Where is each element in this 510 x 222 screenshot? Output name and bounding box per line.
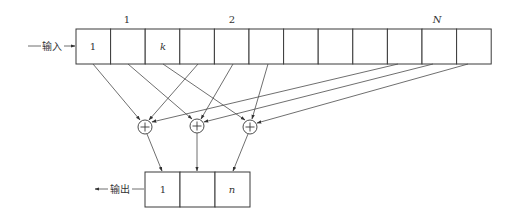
input-label: 输入 xyxy=(42,40,62,52)
input-register: 1 k xyxy=(76,29,491,64)
input-cell-6 xyxy=(249,29,284,64)
output-register: 1 n xyxy=(145,172,250,207)
wire-cell11-adder2 xyxy=(204,64,433,122)
wire-cell2-adder2 xyxy=(128,64,192,119)
input-cell-11 xyxy=(422,29,457,64)
output-label-group: 输出 xyxy=(95,183,144,195)
wire-adder1-out1 xyxy=(147,134,162,171)
input-cell-4 xyxy=(180,29,215,64)
wire-cell12-adder3 xyxy=(257,64,468,123)
wire-cell10-adder1 xyxy=(152,64,398,122)
input-cell-2 xyxy=(111,29,146,64)
convolutional-encoder-diagram: 1 2 N 输入 1 k xyxy=(0,0,510,222)
wire-cell5-adder2 xyxy=(201,64,233,119)
input-cell-9 xyxy=(353,29,388,64)
wire-cell4-adder1 xyxy=(149,64,198,120)
adder-3 xyxy=(243,120,257,134)
input-cell-3-label: k xyxy=(160,41,166,52)
output-cell-3-label: n xyxy=(229,184,235,195)
input-cell-5 xyxy=(214,29,249,64)
output-cell-1-label: 1 xyxy=(160,184,166,195)
wire-cell3-adder3 xyxy=(163,64,245,120)
top-markers: 1 2 N xyxy=(124,14,443,25)
input-connections xyxy=(93,64,468,123)
input-cell-12 xyxy=(457,29,492,64)
input-cell-8 xyxy=(318,29,353,64)
marker-1: 1 xyxy=(124,14,130,25)
wire-cell1-adder1 xyxy=(93,64,140,120)
input-cell-1-label: 1 xyxy=(90,41,96,52)
marker-N: N xyxy=(432,14,443,25)
input-label-group: 输入 xyxy=(28,40,75,52)
output-cell-2 xyxy=(180,172,215,207)
output-label: 输出 xyxy=(110,183,130,195)
marker-2: 2 xyxy=(229,14,235,25)
wire-cell6-adder3 xyxy=(252,64,268,119)
wire-adder3-out3 xyxy=(233,134,248,171)
input-cell-10 xyxy=(387,29,422,64)
adder-2 xyxy=(190,119,204,133)
output-connections xyxy=(147,133,248,171)
input-cell-7 xyxy=(284,29,319,64)
adder-1 xyxy=(138,120,152,134)
